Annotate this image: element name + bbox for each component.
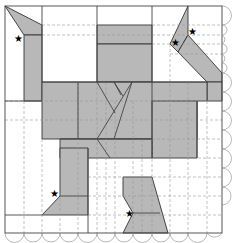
star-icon: ★ [125,208,134,219]
body-right [152,101,197,158]
left-ear-flap [5,6,42,35]
right-diagonal-arm [178,35,222,82]
star-icon: ★ [171,37,180,48]
right-edge-markers [222,6,232,205]
left-neck-strip [24,35,42,101]
bottom-edge-markers [5,233,222,243]
star-icon: ★ [14,33,23,44]
shaded-regions [5,6,222,233]
upper-right-block [97,44,152,82]
crease-pattern-diagram: ★ ★ ★ ★ ★ [0,0,235,243]
right-leg [123,177,168,233]
star-icon: ★ [188,26,197,37]
top-right-band [97,25,152,44]
left-leg [42,148,88,215]
right-arm-end [207,82,222,101]
star-icon: ★ [50,188,59,199]
